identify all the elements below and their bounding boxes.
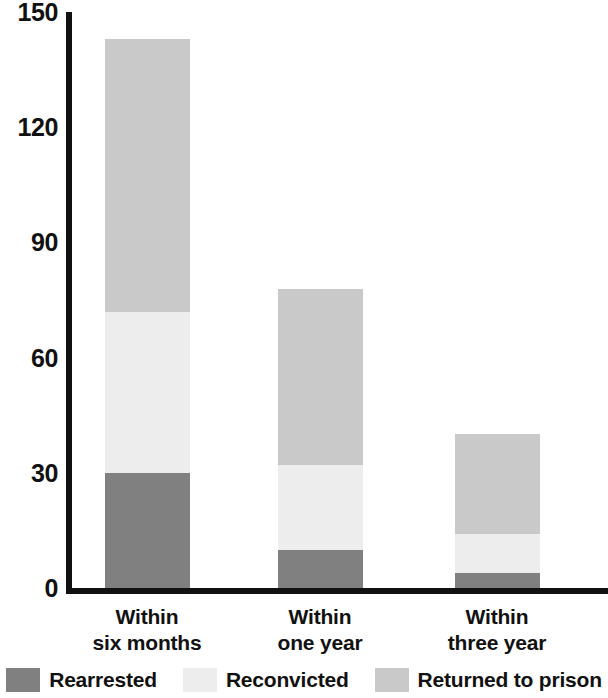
bar-segment-rearrested: [278, 550, 363, 588]
y-tick-150: 150: [0, 0, 58, 25]
legend-swatch-icon: [6, 668, 40, 692]
bar-segment-reconvicted: [455, 534, 540, 572]
bar-segment-reconvicted: [105, 312, 190, 473]
bar-segment-rearrested: [105, 473, 190, 588]
bar-group: [105, 39, 190, 588]
legend-item-rearrested: Rearrested: [6, 668, 157, 692]
bar-group: [455, 434, 540, 588]
legend-label: Rearrested: [49, 668, 157, 692]
bar-group: [278, 289, 363, 588]
y-tick-60: 60: [0, 346, 58, 371]
x-axis-line: [66, 588, 608, 594]
y-tick-30: 30: [0, 461, 58, 486]
stacked-bar-chart: 0306090120150 Withinsix monthsWithinone …: [0, 0, 608, 698]
category-label-3: Withinthree year: [407, 604, 587, 655]
bar-segment-reconvicted: [278, 465, 363, 549]
category-label-line: Within: [57, 604, 237, 630]
category-label-2: Withinone year: [230, 604, 410, 655]
legend-label: Returned to prison: [418, 668, 602, 692]
y-tick-0: 0: [0, 576, 58, 601]
bar-segment-rearrested: [455, 573, 540, 588]
legend-item-returned-to-prison: Returned to prison: [375, 668, 602, 692]
legend-swatch-icon: [375, 668, 409, 692]
category-label-line: Within: [230, 604, 410, 630]
bar-segment-returned-to-prison: [455, 434, 540, 534]
legend-label: Reconvicted: [226, 668, 349, 692]
bar-segment-returned-to-prison: [105, 39, 190, 312]
category-label-line: six months: [57, 630, 237, 656]
category-label-line: one year: [230, 630, 410, 656]
y-tick-120: 120: [0, 115, 58, 140]
category-label-1: Withinsix months: [57, 604, 237, 655]
plot-area: [72, 12, 608, 588]
legend-swatch-icon: [183, 668, 217, 692]
y-tick-90: 90: [0, 230, 58, 255]
bar-segment-returned-to-prison: [278, 289, 363, 466]
chart-legend: RearrestedReconvictedReturned to prison: [0, 668, 608, 692]
category-label-line: Within: [407, 604, 587, 630]
category-label-line: three year: [407, 630, 587, 656]
legend-item-reconvicted: Reconvicted: [183, 668, 349, 692]
